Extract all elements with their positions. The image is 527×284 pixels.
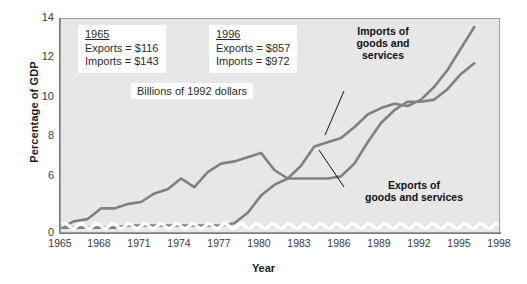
- x-axis-title: Year: [0, 262, 527, 274]
- data-box-1965-imports: Imports = $143: [85, 55, 159, 67]
- data-box-1996-year: 1996: [216, 28, 290, 42]
- x-tick-1968: 1968: [79, 237, 119, 249]
- data-box-1965: 1965 Exports = $116 Imports = $143: [78, 25, 166, 73]
- x-tick-1989: 1989: [359, 237, 399, 249]
- x-tick-1998: 1998: [479, 237, 519, 249]
- x-tick-1986: 1986: [319, 237, 359, 249]
- imports-series-label: Imports of goods and services: [335, 25, 431, 61]
- y-tick-8: 8: [20, 129, 54, 141]
- data-box-1965-exports: Exports = $116: [85, 42, 158, 54]
- units-caption: Billions of 1992 dollars: [131, 83, 253, 99]
- x-tick-1965: 1965: [40, 237, 80, 249]
- plot-area: 1965 Exports = $116 Imports = $143 1996 …: [60, 18, 500, 233]
- y-tick-6: 6: [20, 169, 54, 181]
- x-tick-1983: 1983: [279, 237, 319, 249]
- imports-leader-line: [325, 91, 344, 135]
- data-box-1996: 1996 Exports = $857 Imports = $972: [209, 25, 297, 73]
- axis-break-wave: [61, 224, 500, 229]
- data-box-1996-imports: Imports = $972: [216, 55, 290, 67]
- data-box-1996-exports: Exports = $857: [216, 42, 290, 54]
- x-tick-1980: 1980: [239, 237, 279, 249]
- x-tick-1971: 1971: [119, 237, 159, 249]
- data-box-1965-year: 1965: [85, 28, 159, 42]
- y-tick-14: 14: [20, 11, 54, 23]
- x-tick-1977: 1977: [199, 237, 239, 249]
- x-tick-1995: 1995: [439, 237, 479, 249]
- y-tick-12: 12: [20, 50, 54, 62]
- x-tick-1992: 1992: [399, 237, 439, 249]
- chart-figure: Percentage of GDP 14 12 10 8 6 0 1965 Ex…: [0, 0, 527, 284]
- exports-series-label: Exports of goods and services: [341, 179, 487, 203]
- x-tick-1974: 1974: [159, 237, 199, 249]
- y-tick-10: 10: [20, 90, 54, 102]
